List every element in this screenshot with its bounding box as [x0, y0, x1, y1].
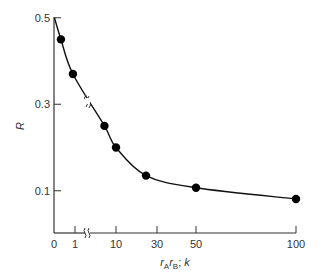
chart: 0.50.30.1 01103050100 R rArB; k	[0, 0, 322, 277]
data-point-marker	[57, 35, 65, 43]
x-tick-label: 50	[190, 238, 202, 250]
y-tick-label: 0.5	[35, 12, 50, 24]
data-point-marker	[69, 70, 77, 78]
data-point-marker	[192, 184, 200, 192]
data-point-marker	[292, 195, 300, 203]
x-tick-label: 10	[110, 238, 122, 250]
y-tick-label: 0.1	[35, 185, 50, 197]
x-tick-label: 0	[51, 238, 57, 250]
x-axis-label: rArB; k	[160, 256, 190, 271]
data-point-marker	[112, 143, 120, 151]
x-tick-label: 30	[151, 238, 163, 250]
x-tick-label: 1	[72, 238, 78, 250]
y-axis-label: R	[14, 122, 26, 130]
x-axis-break-icon	[84, 228, 90, 238]
y-tick-label: 0.3	[35, 98, 50, 110]
data-point-marker	[100, 122, 108, 130]
x-tick-label: 100	[287, 238, 305, 250]
data-curve	[55, 18, 297, 199]
data-markers	[57, 35, 300, 203]
curve-gap	[85, 98, 90, 104]
data-point-marker	[142, 171, 150, 179]
